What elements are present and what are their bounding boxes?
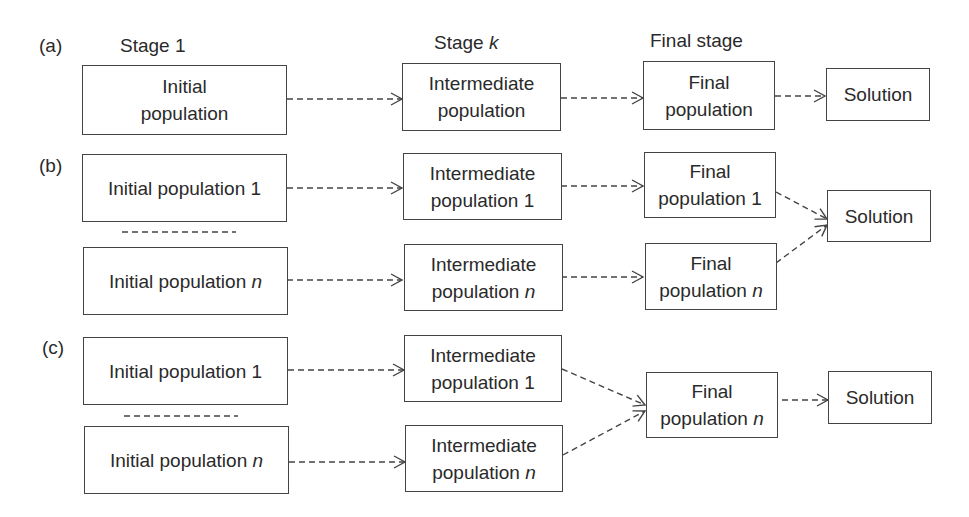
node-a-final-population: Final population [643,61,775,130]
node-label: population 1 [431,369,535,396]
stage-header-1: Stage 1 [120,35,186,57]
node-label: Solution [845,203,914,230]
node-a-solution: Solution [826,68,930,121]
node-label: Intermediate [430,160,536,187]
node-label: Initial population 1 [109,358,262,385]
node-label: Solution [846,384,915,411]
node-c-final-population-n: Final population n [646,372,778,438]
stage-header-k-var: k [489,32,499,53]
node-b-final-population-n: Final population n [645,243,777,310]
node-label: Initial population 1 [108,175,261,202]
node-label: Intermediate [431,432,537,459]
stage-header-k: Stage k [434,32,498,54]
panel-label-c: (c) [42,337,64,359]
node-label: population n [432,459,536,486]
node-label: Intermediate [431,251,537,278]
node-b-final-population-1: Final population 1 [644,152,776,218]
node-a-intermediate-population: Intermediate population [402,63,561,131]
node-label: Final [688,69,729,96]
node-label: population n [432,278,536,305]
node-label: Final [690,250,731,277]
node-c-initial-population-1: Initial population 1 [83,337,288,405]
edge-b-final1-to-solution [776,192,827,219]
node-b-initial-population-1: Initial population 1 [82,154,287,222]
node-c-intermediate-population-n: Intermediate population n [405,425,563,492]
node-b-intermediate-population-n: Intermediate population n [404,244,563,311]
node-label: Final [689,158,730,185]
stage-header-final: Final stage [650,30,743,52]
node-label: Solution [844,81,913,108]
node-label: population n [659,277,763,304]
node-label: population 1 [431,187,535,214]
node-c-solution: Solution [828,371,932,424]
node-c-initial-population-n: Initial population n [84,426,289,494]
edge-c-intermediaten-to-finaln [563,411,645,455]
node-c-intermediate-population-1: Intermediate population 1 [404,335,562,402]
node-label: Final [691,378,732,405]
node-label: Initial population n [109,268,262,295]
node-label: population n [660,405,764,432]
node-label: population [141,100,229,127]
panel-label-a: (a) [39,35,62,57]
node-b-intermediate-population-1: Intermediate population 1 [403,153,562,220]
node-label: Intermediate [430,342,536,369]
node-b-solution: Solution [827,190,931,242]
node-label: Initial [162,73,206,100]
panel-label-b: (b) [39,155,62,177]
node-a-initial-population: Initial population [82,65,287,135]
node-label: Intermediate [429,70,535,97]
node-label: Initial population n [110,447,263,474]
node-label: population 1 [658,185,762,212]
stage-header-k-prefix: Stage [434,32,489,53]
node-b-initial-population-n: Initial population n [83,247,288,315]
node-label: population [665,96,753,123]
node-label: population [438,97,526,124]
edge-b-finaln-to-solution [776,225,827,263]
edge-c-intermediate1-to-finaln [562,369,645,405]
